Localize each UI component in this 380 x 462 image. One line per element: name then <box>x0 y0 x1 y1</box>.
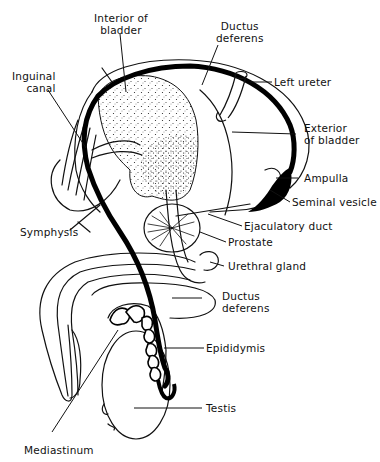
bladder-inner-wall <box>102 68 112 82</box>
label-ductus-deferens-bottom: Ductus deferens <box>222 290 270 314</box>
inguinal-strands <box>62 120 96 200</box>
label-symphysis: Symphysis <box>20 226 78 238</box>
label-ampulla: Ampulla <box>304 172 348 184</box>
label-ejaculatory-duct: Ejaculatory duct <box>244 220 333 232</box>
urethral-gland-shape <box>200 252 218 271</box>
ampulla-shape <box>248 168 292 212</box>
bladder-inner-arc <box>200 90 232 215</box>
label-mediastinum: Mediastinum <box>24 444 94 456</box>
label-exterior-of-bladder: Exterior of bladder <box>304 122 360 146</box>
label-line: Ductus <box>222 290 270 302</box>
label-seminal-vesicle: Seminal vesicle <box>292 196 377 208</box>
label-line: deferens <box>216 32 264 44</box>
label-left-ureter: Left ureter <box>274 76 331 88</box>
label-line: Exterior <box>304 122 360 134</box>
label-urethral-gland: Urethral gland <box>228 260 306 272</box>
label-ductus-deferens-top: Ductus deferens <box>216 20 264 44</box>
label-interior-of-bladder: Interior of bladder <box>94 12 148 36</box>
label-epididymis: Epididymis <box>206 342 265 354</box>
label-inguinal-canal: Inguinal canal <box>12 70 56 94</box>
label-line: of bladder <box>304 134 360 146</box>
label-line: Inguinal <box>12 70 56 82</box>
label-line: Ductus <box>216 20 264 32</box>
left-ureter-shape <box>216 72 247 122</box>
label-line: bladder <box>94 24 148 36</box>
label-testis: Testis <box>206 402 236 414</box>
label-line: deferens <box>222 302 270 314</box>
label-line: Interior of <box>94 12 148 24</box>
penis-inner-2 <box>71 274 190 395</box>
label-prostate: Prostate <box>228 236 273 248</box>
label-line: canal <box>12 82 56 94</box>
